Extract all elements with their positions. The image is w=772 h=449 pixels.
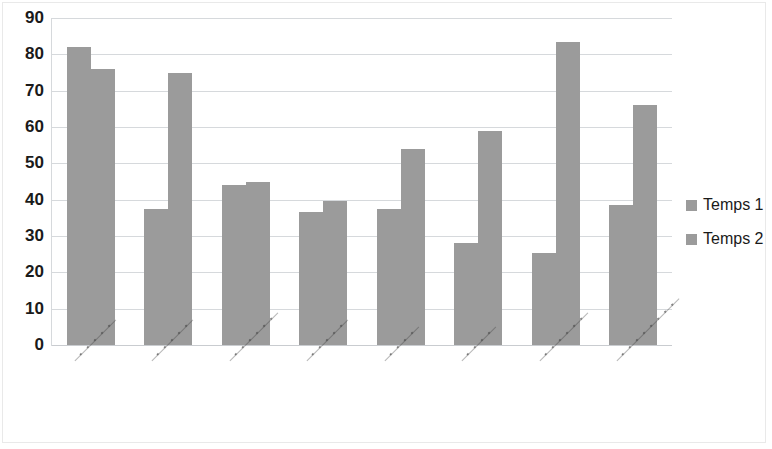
bar-group (377, 18, 425, 345)
bar-group (222, 18, 270, 345)
bar-series-1[interactable] (67, 47, 91, 345)
bar-group (609, 18, 657, 345)
bar-series-2[interactable] (478, 131, 502, 345)
chart-legend: Temps 1 Temps 2 (686, 196, 763, 264)
bar-series-1[interactable] (454, 243, 478, 345)
legend-item-temps-2[interactable]: Temps 2 (686, 230, 763, 248)
gridline (52, 345, 672, 346)
bar-series-1[interactable] (222, 185, 246, 345)
bar-series-1[interactable] (299, 212, 323, 345)
legend-swatch-icon (686, 200, 697, 211)
bar-group (67, 18, 115, 345)
bar-group (454, 18, 502, 345)
chart-container: 0102030405060708090 —•—•—•—•—•——•—•—•—•—… (0, 0, 772, 449)
y-axis-tick-label: 90 (4, 9, 44, 26)
bar-series-1[interactable] (609, 205, 633, 345)
y-axis-tick-label: 30 (4, 227, 44, 244)
y-axis-tick-label: 50 (4, 154, 44, 171)
bar-series-2[interactable] (633, 105, 657, 345)
bar-series-2[interactable] (556, 42, 580, 345)
y-axis-line (51, 18, 52, 346)
bar-group (299, 18, 347, 345)
y-axis-tick-label: 60 (4, 118, 44, 135)
legend-swatch-icon (686, 234, 697, 245)
bar-series-1[interactable] (144, 209, 168, 345)
legend-label: Temps 2 (703, 231, 763, 247)
bar-series-2[interactable] (168, 73, 192, 346)
y-axis-tick-label: 20 (4, 263, 44, 280)
bar-series-1[interactable] (377, 209, 401, 345)
bar-group (144, 18, 192, 345)
bar-series-2[interactable] (91, 69, 115, 345)
plot-area (52, 18, 672, 345)
y-axis-tick-label: 70 (4, 82, 44, 99)
y-axis-tick-label: 40 (4, 191, 44, 208)
y-axis-tick-label: 80 (4, 45, 44, 62)
legend-item-temps-1[interactable]: Temps 1 (686, 196, 763, 214)
bar-series-1[interactable] (532, 253, 556, 345)
y-axis-tick-label: 0 (4, 336, 44, 353)
bar-group (532, 18, 580, 345)
legend-label: Temps 1 (703, 197, 763, 213)
y-axis-tick-label: 10 (4, 300, 44, 317)
bar-series-2[interactable] (401, 149, 425, 345)
